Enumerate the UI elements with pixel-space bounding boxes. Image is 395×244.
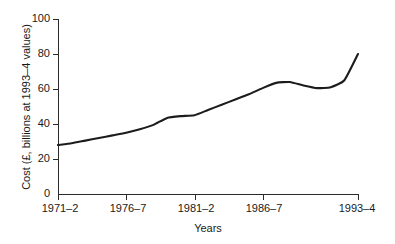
y-axis-tick-labels: 100 80 60 40 20 0: [32, 12, 50, 199]
y-tick-label-40: 40: [38, 117, 50, 129]
y-tick-label-20: 20: [38, 152, 50, 164]
y-tick-label-0: 0: [44, 187, 50, 199]
x-tick-label-1981: 1981–2: [178, 202, 215, 214]
x-axis-tick-labels: 1971–2 1976–7 1981–2 1986–7 1993–4: [42, 202, 376, 214]
x-tick-label-1971: 1971–2: [42, 202, 79, 214]
x-tick-label-1993: 1993–4: [339, 202, 376, 214]
y-axis-ticks: [53, 20, 59, 160]
y-tick-label-100: 100: [32, 12, 50, 24]
chart-container: 100 80 60 40 20 0 1971–2 1976–7 1981–2 1…: [0, 0, 395, 244]
x-tick-label-1976: 1976–7: [110, 202, 147, 214]
y-axis-title: Cost (£, billions at 1993–4 values): [20, 24, 32, 190]
x-axis-ticks: [59, 195, 359, 201]
cost-series-line: [58, 54, 358, 145]
x-tick-label-1986: 1986–7: [246, 202, 283, 214]
y-tick-label-80: 80: [38, 47, 50, 59]
y-tick-label-60: 60: [38, 82, 50, 94]
x-axis-title: Years: [194, 222, 222, 234]
line-chart: 100 80 60 40 20 0 1971–2 1976–7 1981–2 1…: [0, 0, 395, 244]
